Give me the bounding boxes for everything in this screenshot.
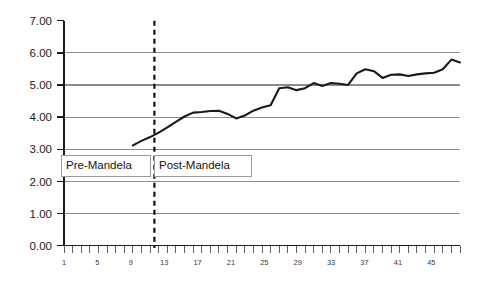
x-tick-label-41: 41 bbox=[394, 258, 402, 267]
x-tick-label-25: 25 bbox=[260, 258, 268, 267]
data-series-line bbox=[133, 60, 460, 146]
x-tick-label-5: 5 bbox=[95, 258, 99, 267]
x-tick-label-1: 1 bbox=[62, 258, 66, 267]
y-tick-labels: 7.00 6.00 5.00 4.00 3.00 2.00 1.00 0.00 bbox=[30, 15, 52, 252]
x-tick-label-45: 45 bbox=[427, 258, 435, 267]
y-tick-label-2: 2.00 bbox=[30, 176, 52, 188]
x-tick-label-33: 33 bbox=[327, 258, 335, 267]
pre-mandela-annotation: Pre-Mandela bbox=[61, 155, 150, 176]
y-tick-label-1: 1.00 bbox=[30, 208, 52, 220]
chart-page: 7.00 6.00 5.00 4.00 3.00 2.00 1.00 0.00 … bbox=[0, 0, 477, 288]
y-tick-label-4: 4.00 bbox=[30, 111, 52, 123]
post-mandela-annotation: Post-Mandela bbox=[154, 155, 251, 176]
y-tick-label-6: 6.00 bbox=[30, 47, 52, 59]
y-tick-label-3: 3.00 bbox=[30, 143, 52, 155]
x-tick-label-37: 37 bbox=[360, 258, 368, 267]
line-chart: 7.00 6.00 5.00 4.00 3.00 2.00 1.00 0.00 … bbox=[0, 0, 477, 288]
y-tick-label-7: 7.00 bbox=[30, 15, 52, 27]
y-tickmarks bbox=[57, 21, 64, 246]
x-tick-label-13: 13 bbox=[160, 258, 168, 267]
x-tick-label-17: 17 bbox=[193, 258, 201, 267]
pre-mandela-label: Pre-Mandela bbox=[66, 159, 132, 171]
y-tick-label-5: 5.00 bbox=[30, 79, 52, 91]
y-tick-label-0: 0.00 bbox=[30, 240, 52, 252]
x-tick-labels: 1 5 9 13 17 21 25 29 33 37 41 45 bbox=[62, 258, 436, 267]
x-tick-label-29: 29 bbox=[294, 258, 302, 267]
x-tick-label-9: 9 bbox=[129, 258, 133, 267]
x-tickmarks bbox=[64, 246, 460, 253]
x-tick-label-21: 21 bbox=[227, 258, 235, 267]
post-mandela-label: Post-Mandela bbox=[159, 159, 231, 171]
gridlines bbox=[64, 53, 460, 214]
